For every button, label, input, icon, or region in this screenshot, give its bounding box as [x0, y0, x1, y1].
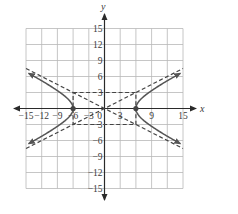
- x-tick-label: −15: [19, 111, 34, 121]
- y-tick-label: 15: [93, 24, 103, 34]
- y-tick-label: −6: [92, 136, 102, 146]
- x-tick-label: 3: [118, 111, 123, 121]
- y-tick-label: −12: [88, 168, 103, 178]
- y-tick-label: −3: [92, 120, 102, 130]
- hyperbola-right-branch: [136, 109, 180, 144]
- hyperbola-left-branch: [29, 73, 73, 108]
- vertex-right-point: [133, 106, 138, 111]
- x-tick-label: −9: [52, 111, 62, 121]
- x-tick-label: 0: [97, 111, 102, 121]
- y-tick-label: −15: [88, 184, 103, 194]
- x-tick-labels: −15−12−9−6−303915: [19, 111, 188, 121]
- y-tick-label: 3: [98, 88, 103, 98]
- hyperbola-chart: −15−12−9−6−303915 1512963−3−6−9−12−15 x …: [0, 0, 238, 214]
- y-tick-label: −9: [92, 152, 102, 162]
- hyperbola-right-branch: [136, 73, 180, 108]
- x-tick-label: 15: [178, 111, 188, 121]
- y-tick-label: 6: [98, 72, 103, 82]
- y-tick-label: 12: [93, 40, 103, 50]
- x-tick-label: −12: [34, 111, 49, 121]
- x-axis-label: x: [199, 103, 205, 114]
- y-tick-label: 9: [98, 56, 103, 66]
- x-tick-label: −6: [68, 111, 78, 121]
- x-tick-label: 9: [149, 111, 154, 121]
- x-tick-label: −3: [84, 111, 94, 121]
- y-axis-label: y: [100, 1, 106, 12]
